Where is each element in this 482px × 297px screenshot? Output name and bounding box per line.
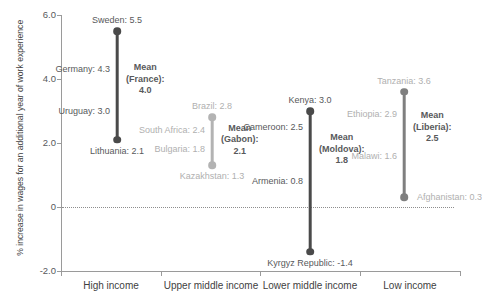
y-tick-label: 2.0: [16, 138, 56, 148]
mean-annotation-line-2: 2.5: [413, 133, 452, 145]
zero-reference-line: [62, 207, 454, 208]
endpoint-dot-min-0: [113, 136, 121, 144]
x-tick-mark: [360, 271, 361, 276]
endpoint-dot-min-1: [208, 162, 216, 170]
endpoint-dot-max-3: [400, 88, 408, 96]
x-tick-mark: [61, 271, 62, 276]
range-line-1: [211, 117, 214, 165]
point-label-2-1: Armenia: 0.8: [252, 177, 303, 186]
y-tick-label: 4.0: [16, 74, 56, 84]
mean-annotation-line-2: 4.0: [126, 85, 165, 97]
y-tick-mark: [57, 207, 61, 208]
mean-annotation-line-0: Mean: [126, 62, 165, 74]
point-label-1-1: Bulgaria: 1.8: [154, 145, 205, 154]
mean-annotation-line-1: (France):: [126, 73, 165, 85]
endpoint-dot-min-3: [400, 194, 408, 202]
mean-annotation-line-0: Mean: [413, 110, 452, 122]
min-point-label-1: Kazakhstan: 1.3: [180, 172, 245, 181]
mean-annotation-0: Mean(France):4.0: [126, 62, 165, 97]
y-tick-mark: [57, 143, 61, 144]
point-label-2-0: Cameroon: 2.5: [243, 123, 303, 132]
y-axis-line: [61, 15, 62, 271]
point-label-3-1: Malawi: 1.6: [351, 151, 397, 160]
point-label-1-0: South Africa: 2.4: [139, 126, 205, 135]
min-point-label-0: Lithuania: 2.1: [90, 146, 144, 155]
y-tick-mark: [57, 79, 61, 80]
x-category-label-3: Low income: [350, 280, 470, 292]
y-tick-label: -2.0: [16, 266, 56, 276]
endpoint-dot-min-2: [306, 248, 314, 256]
max-point-label-1: Brazil: 2.8: [192, 102, 232, 111]
range-line-3: [403, 92, 406, 198]
y-tick-label: 6.0: [16, 10, 56, 20]
x-tick-mark: [460, 271, 461, 276]
x-tick-mark: [161, 271, 162, 276]
min-point-label-3: Afghanistan: 0.3: [417, 193, 482, 202]
max-point-label-0: Sweden: 5.5: [92, 16, 142, 25]
point-label-3-0: Ethiopia: 2.9: [347, 110, 397, 119]
max-point-label-3: Tanzania: 3.6: [377, 76, 431, 85]
y-tick-mark: [57, 15, 61, 16]
mean-annotation-line-1: (Liberia):: [413, 121, 452, 133]
max-point-label-2: Kenya: 3.0: [288, 96, 331, 105]
endpoint-dot-max-2: [306, 107, 314, 115]
range-line-0: [116, 31, 119, 140]
mean-annotation-line-1: (Gabon):: [221, 134, 259, 146]
mean-annotation-line-2: 2.1: [221, 146, 259, 158]
point-label-0-1: Uruguay: 3.0: [58, 107, 110, 116]
mean-annotation-3: Mean(Liberia):2.5: [413, 110, 452, 145]
range-line-2: [309, 111, 312, 252]
min-point-label-2: Kyrgyz Republic: -1.4: [267, 258, 353, 267]
endpoint-dot-max-1: [208, 114, 216, 122]
point-label-0-0: Germany: 4.3: [55, 65, 110, 74]
mean-annotation-line-0: Mean: [319, 132, 365, 144]
x-tick-mark: [260, 271, 261, 276]
endpoint-dot-max-0: [113, 27, 121, 35]
y-tick-label: 0: [16, 202, 56, 212]
